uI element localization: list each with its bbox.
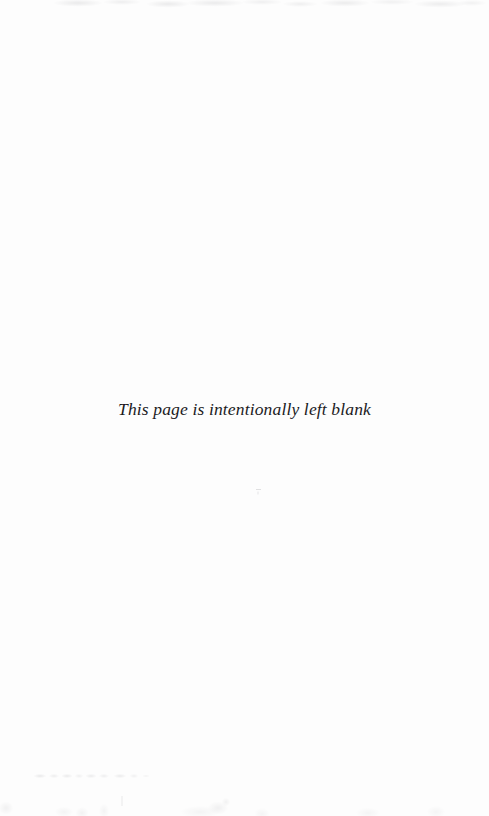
ghost-text-artifact	[34, 771, 154, 782]
top-bleed-through-artifact	[0, 0, 489, 13]
blank-page-notice: This page is intentionally left blank	[0, 398, 489, 420]
scanned-page: This page is intentionally left blank	[0, 0, 489, 816]
bottom-scan-noise-artifact	[0, 792, 489, 816]
dust-speck-artifact	[256, 489, 261, 496]
blank-page-notice-text: This page is intentionally left blank	[118, 398, 371, 420]
